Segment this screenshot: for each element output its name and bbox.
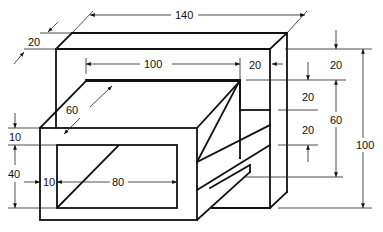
dim-window-width: 80 <box>112 176 124 188</box>
dim-gap-lower: 20 <box>302 124 314 136</box>
dim-window-height: 40 <box>8 168 20 180</box>
dim-right-wall: 20 <box>249 59 261 71</box>
dim-opening-height: 60 <box>330 114 342 126</box>
dim-overall-height: 100 <box>356 139 374 151</box>
dim-inner-width: 100 <box>144 58 162 70</box>
technical-drawing: 140 20 100 20 60 20 20 20 <box>0 0 383 232</box>
dim-top-rail: 20 <box>330 59 342 71</box>
dim-gap-upper: 20 <box>302 91 314 103</box>
dim-overall-width: 140 <box>175 9 193 21</box>
dimensions: 140 20 100 20 60 20 20 20 <box>8 9 374 208</box>
dim-box-depth: 60 <box>66 104 78 116</box>
front-box <box>40 80 270 220</box>
dim-front-left-wall: 10 <box>43 176 55 188</box>
dim-frame-depth: 20 <box>28 36 40 48</box>
dim-front-top-wall: 10 <box>9 131 21 143</box>
